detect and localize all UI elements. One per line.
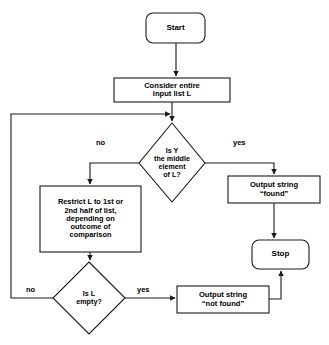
node-consider-shape <box>114 78 230 102</box>
node-restrict-shape <box>40 186 141 252</box>
edge-output-not-found-to-stop <box>269 271 281 299</box>
edge-label-empty-yes: yes <box>137 286 150 294</box>
node-output-found-shape <box>228 176 320 203</box>
flowchart-canvas: left then down into Restrict --> right t… <box>0 0 329 345</box>
figure-flowchart: left then down into Restrict --> right t… <box>0 0 329 345</box>
edge-label-middle-yes: yes <box>233 139 246 147</box>
node-decision-middle-shape <box>139 123 205 202</box>
figure-caption <box>18 336 318 345</box>
node-decision-empty-shape <box>53 262 125 334</box>
node-stop-shape <box>252 240 309 269</box>
node-start-shape <box>146 13 205 43</box>
edge-decision-middle-yes-to-output-found <box>205 163 274 174</box>
edge-label-empty-no: no <box>26 286 35 294</box>
edge-label-middle-no: no <box>96 139 105 147</box>
edge-decision-empty-no-loopback <box>11 114 170 298</box>
node-output-not-found-shape <box>177 286 269 313</box>
edge-decision-middle-no-to-restrict <box>90 163 139 184</box>
